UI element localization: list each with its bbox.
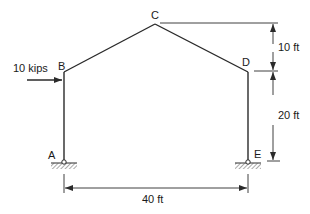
rafter-cd — [155, 24, 248, 72]
frame-diagram: A B C D E 10 kips 10 ft 20 ft 40 ft — [0, 0, 310, 214]
dimension-column-height: 20 ft — [278, 109, 299, 121]
node-label-e: E — [254, 148, 261, 160]
support-a — [51, 160, 77, 169]
node-label-b: B — [58, 60, 65, 72]
node-label-a: A — [48, 149, 56, 161]
horizontal-dimension — [64, 174, 248, 193]
pin-icon — [62, 160, 66, 164]
pin-icon — [246, 160, 250, 164]
vertical-dimensions — [160, 23, 280, 161]
rafter-bc — [64, 24, 155, 72]
load-arrow: 10 kips — [13, 62, 62, 80]
frame-members — [64, 24, 248, 161]
node-label-c: C — [151, 9, 159, 21]
support-e — [235, 160, 261, 169]
dimension-roof-rise: 10 ft — [278, 41, 299, 53]
dimension-span: 40 ft — [142, 193, 163, 205]
node-label-d: D — [242, 56, 250, 68]
load-label: 10 kips — [13, 62, 48, 74]
